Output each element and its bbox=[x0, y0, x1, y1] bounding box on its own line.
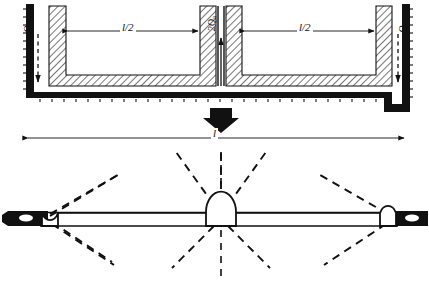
load-label-right: Qa bbox=[398, 23, 409, 33]
right-bay-hatch bbox=[226, 6, 392, 86]
rough-edge-right bbox=[410, 9, 413, 97]
dimension-label-right-half: l/2 bbox=[297, 22, 313, 33]
load-label-left-text: Q bbox=[22, 26, 33, 33]
implies-arrow bbox=[203, 108, 239, 133]
load-label-left: Qa bbox=[23, 23, 34, 33]
load-label-center: 2Qa bbox=[207, 16, 218, 31]
dimension-label-full-span: l bbox=[211, 128, 218, 139]
collapse-mechanism bbox=[2, 148, 428, 278]
dimension-label-left-half: l/2 bbox=[120, 22, 136, 33]
load-label-center-text: 2Q bbox=[206, 19, 217, 31]
hinge-center bbox=[206, 192, 236, 226]
left-bay-hatch bbox=[49, 6, 216, 86]
load-label-center-sub: a bbox=[210, 16, 217, 19]
load-label-left-sub: a bbox=[27, 23, 34, 26]
mechanism-figure bbox=[0, 0, 429, 287]
rough-edge-left bbox=[23, 9, 26, 89]
load-label-right-text: Q bbox=[397, 26, 408, 33]
rough-edge-bottom bbox=[40, 99, 376, 102]
hinge-right bbox=[380, 206, 396, 226]
right-outer-wall bbox=[402, 4, 410, 112]
load-label-right-sub: a bbox=[402, 23, 409, 26]
plastic-hinges bbox=[42, 192, 396, 226]
